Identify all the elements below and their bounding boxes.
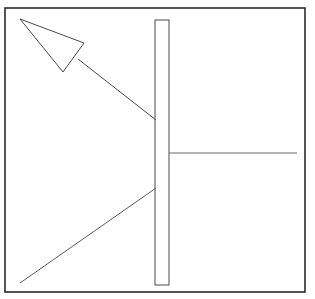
lower-diagonal-line <box>20 188 156 283</box>
vertical-bar-rect <box>155 20 169 285</box>
arrowhead-triangle <box>20 19 84 72</box>
line-drawing-svg <box>0 0 315 299</box>
figure-canvas <box>0 0 315 299</box>
upper-diagonal-line <box>78 59 156 120</box>
